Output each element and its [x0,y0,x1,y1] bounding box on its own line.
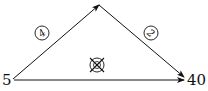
edge-label-apex-to-right: 2 [144,26,158,40]
diagram-canvas: 5 40 4 2 [0,0,208,91]
node-left-label: 5 [2,71,12,89]
crossed-out-symbol-icon [90,58,104,72]
edge-label-left-to-apex: 4 [35,26,49,40]
edge-left-to-apex [13,5,99,79]
node-right-label: 40 [187,71,206,89]
edge-apex-to-right [99,5,184,77]
